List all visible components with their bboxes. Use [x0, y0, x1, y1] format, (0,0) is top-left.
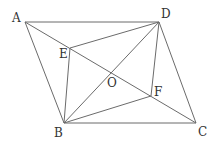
- label-f: F: [154, 85, 162, 99]
- label-a: A: [11, 11, 21, 25]
- segment-de: [70, 22, 159, 48]
- label-b: B: [54, 126, 63, 140]
- segment-ab: [25, 22, 64, 123]
- diagonal-ac: [25, 22, 196, 123]
- segments: [25, 22, 196, 123]
- label-c: C: [198, 125, 207, 139]
- label-d: D: [161, 7, 171, 21]
- label-o: O: [107, 76, 117, 90]
- segment-cd: [159, 22, 196, 123]
- label-e: E: [59, 47, 68, 61]
- geometry-figure: A D E O F B C: [0, 0, 219, 145]
